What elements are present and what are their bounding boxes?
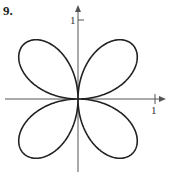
polar-plot xyxy=(0,0,170,174)
x-axis-arrow-icon xyxy=(159,96,166,102)
y-tick-label: 1 xyxy=(70,14,76,26)
y-axis-arrow-icon xyxy=(75,5,81,12)
x-tick-label: 1 xyxy=(151,104,157,116)
